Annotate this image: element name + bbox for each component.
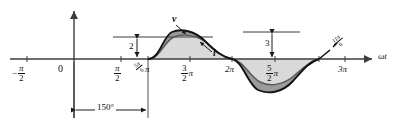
pi-symbol: π: [189, 69, 194, 78]
x-tick-label-zero: 0: [58, 64, 63, 74]
denominator: 2: [266, 74, 273, 83]
x-tick-label-three-half-pi: 3 2 π: [181, 64, 193, 83]
numerator: π: [18, 64, 25, 73]
numerator: 5: [266, 64, 273, 73]
x-tick-label-pi: π: [145, 65, 150, 74]
x-tick-label-three-pi: 3π: [338, 65, 347, 74]
pi-symbol: π: [274, 69, 279, 78]
x-tick-label-half-pi: π 2: [114, 64, 121, 83]
denominator: 2: [181, 74, 188, 83]
dimension-label-amp-left: 2: [129, 42, 134, 51]
denominator: 2: [18, 74, 25, 83]
x-tick-label-neg-half-pi: − π 2: [12, 64, 25, 83]
numerator: π: [114, 64, 121, 73]
x-axis-label: ωt: [378, 52, 387, 61]
x-tick-label-two-pi: 2π: [225, 65, 234, 74]
x-tick-label-five-half-pi: 5 2 π: [266, 64, 278, 83]
dimension-label-phase: 150°: [95, 103, 116, 112]
waveform-figure: ωt v i 2 3 150° − π 2 0 π 2 5π: [0, 0, 402, 126]
minus-sign: −: [12, 69, 17, 78]
dimension-label-amp-right: 3: [265, 39, 270, 48]
denominator: 2: [114, 74, 121, 83]
numerator: 3: [181, 64, 188, 73]
curve-label-voltage: v: [172, 14, 176, 24]
curve-label-current: i: [213, 48, 216, 58]
